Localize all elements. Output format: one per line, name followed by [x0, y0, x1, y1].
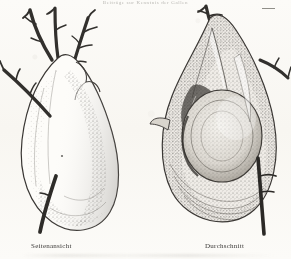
caption-cross-section: Durchschnitt: [205, 242, 244, 250]
side-view-drawing: [0, 0, 150, 240]
gall-body-side: [0, 40, 150, 240]
cross-section-drawing: [148, 0, 291, 240]
caption-side-view: Seitenansicht: [31, 242, 72, 250]
scan-smudge: [20, 254, 275, 257]
figure-side-view: [0, 0, 150, 240]
figure-cross-section: [148, 0, 291, 240]
twig-right-lateral: [260, 58, 291, 78]
thorn-left: [150, 118, 170, 130]
plate-page: Beiträge zur Kenntnis der Gallen: [0, 0, 291, 259]
